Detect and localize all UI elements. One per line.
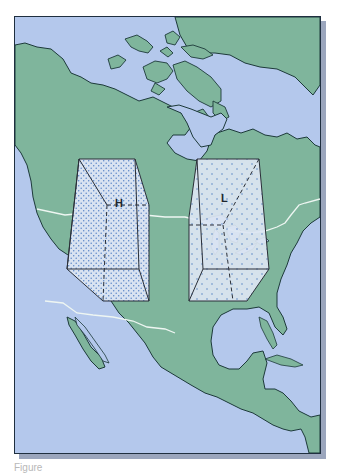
low-pressure-column: L: [189, 159, 269, 301]
high-pressure-label: H: [115, 197, 123, 209]
low-pressure-label: L: [221, 192, 228, 204]
map-frame: H L: [14, 16, 321, 454]
high-pressure-column: H: [67, 159, 149, 301]
figure-caption: Figure: [14, 462, 42, 473]
north-america-map: H L: [15, 17, 320, 453]
